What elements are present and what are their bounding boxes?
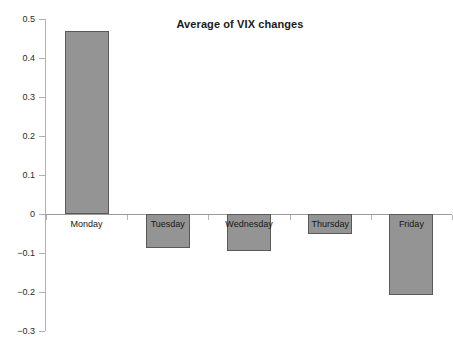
y-tick-mark	[39, 253, 45, 254]
category-label: Thursday	[290, 219, 371, 230]
y-tick-label: 0.3	[0, 93, 35, 102]
y-axis-line	[45, 19, 46, 331]
y-tick-label: 0.1	[0, 171, 35, 180]
category-label: Friday	[371, 219, 452, 230]
chart-title: Average of VIX changes	[150, 18, 330, 30]
y-tick-mark	[39, 136, 45, 137]
y-tick-mark	[39, 19, 45, 20]
y-tick-label: 0.2	[0, 132, 35, 141]
y-tick-label: 0	[0, 210, 35, 219]
bar-chart: Average of VIX changes 0.50.40.30.20.10−…	[0, 0, 453, 356]
category-label: Wednesday	[208, 219, 289, 230]
y-tick-mark	[39, 58, 45, 59]
category-label: Monday	[46, 219, 127, 230]
category-label: Tuesday	[127, 219, 208, 230]
y-tick-label: 0.5	[0, 15, 35, 24]
y-tick-mark	[39, 214, 45, 215]
y-tick-mark	[39, 331, 45, 332]
y-tick-label: −0.1	[0, 249, 35, 258]
y-tick-mark	[39, 97, 45, 98]
y-tick-mark	[39, 292, 45, 293]
y-tick-label: 0.4	[0, 54, 35, 63]
y-tick-label: −0.3	[0, 327, 35, 336]
bar	[65, 31, 109, 214]
y-tick-label: −0.2	[0, 288, 35, 297]
y-tick-mark	[39, 175, 45, 176]
